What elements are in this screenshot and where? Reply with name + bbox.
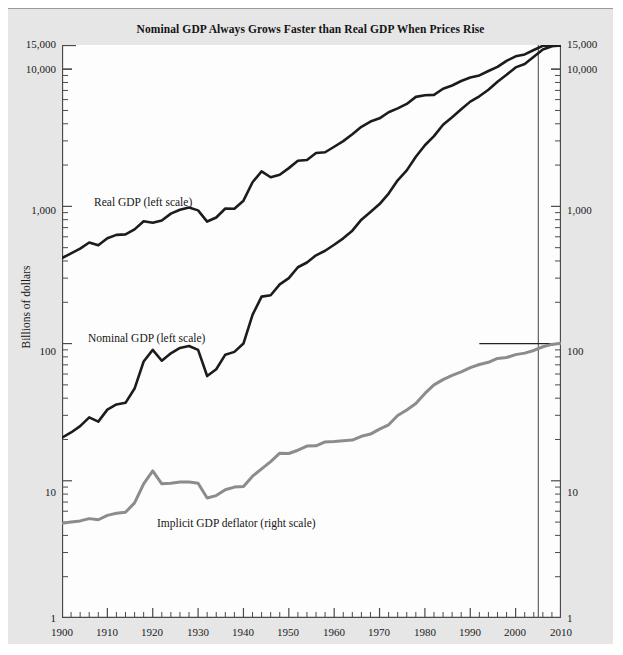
y-right-tick-15000: 15,000 — [567, 38, 623, 50]
reference-lines — [479, 45, 561, 618]
y-left-tick-10000: 10,000 — [4, 63, 56, 75]
y-axis-left-title: Billions of dollars — [20, 227, 32, 387]
series-label-real-gdp: Real GDP (left scale) — [94, 196, 192, 208]
y-right-tick-10: 10 — [567, 486, 623, 498]
y-left-tick-15000: 15,000 — [4, 38, 56, 50]
chart-title: Nominal GDP Always Grows Faster than Rea… — [8, 23, 613, 35]
series-label-nominal-gdp: Nominal GDP (left scale) — [88, 332, 205, 344]
series-line-nominal-gdp — [62, 45, 561, 437]
y-right-tick-1000: 1,000 — [567, 204, 623, 216]
y-left-tick-10: 10 — [4, 486, 56, 498]
series-label-deflator: Implicit GDP deflator (right scale) — [157, 517, 316, 529]
series-line-real-gdp — [62, 45, 561, 258]
y-right-tick-10000: 10,000 — [567, 63, 623, 75]
y-left-tick-1000: 1,000 — [4, 204, 56, 216]
plot-area: Real GDP (left scale) Nominal GDP (left … — [62, 45, 561, 618]
data-series — [62, 45, 561, 523]
y-right-tick-100: 100 — [567, 345, 623, 357]
x-tick-2010: 2010 — [531, 626, 591, 638]
y-right-tick-1: 1 — [567, 612, 623, 624]
figure-panel: Nominal GDP Always Grows Faster than Rea… — [8, 8, 613, 644]
y-left-tick-1: 1 — [4, 612, 56, 624]
series-line-deflator — [62, 343, 561, 523]
